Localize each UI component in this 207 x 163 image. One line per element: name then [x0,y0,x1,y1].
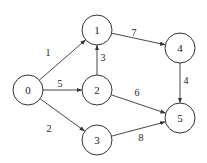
edge-weight-label: 6 [135,87,140,98]
edge-weight-label: 5 [58,78,63,89]
node-label: 3 [94,134,100,146]
node-label: 4 [177,42,183,54]
node-4: 4 [165,33,195,63]
node-label: 5 [177,112,183,124]
edge-weight-label: 1 [46,47,51,58]
edge-weight-label: 3 [101,52,106,63]
node-0: 0 [13,75,43,105]
node-label: 1 [94,24,100,36]
edge-weight-label: 7 [132,27,137,38]
node-1: 1 [82,15,112,45]
edge-1-to-4 [112,33,166,45]
node-label: 0 [25,84,31,96]
node-3: 3 [82,125,112,155]
edge-weight-label: 4 [184,75,189,86]
edge-weight-label: 2 [47,123,52,134]
graph-diagram: 15237684 012345 [0,0,207,163]
edge-arrow [112,33,166,45]
node-5: 5 [165,103,195,133]
edge-2-to-5 [111,95,166,113]
node-label: 2 [94,84,100,96]
edge-weight-label: 8 [139,132,144,143]
edge-arrow [111,95,166,113]
node-2: 2 [82,75,112,105]
